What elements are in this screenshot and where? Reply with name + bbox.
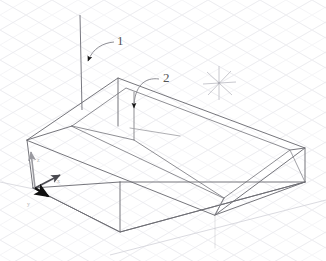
cad-3d-viewport[interactable]: 1 2 z x y (0, 0, 326, 261)
gizmo-z-label: z (37, 157, 40, 163)
callout-1-label: 1 (117, 33, 124, 48)
cad-drawing-canvas[interactable]: 1 2 z x y (0, 0, 326, 261)
callout-2-label: 2 (163, 70, 170, 85)
grid-pattern-coarse (0, 0, 326, 261)
gizmo-x-label: x (57, 178, 60, 184)
cursor-center-dot (218, 82, 221, 85)
gizmo-y-label: y (27, 201, 30, 207)
